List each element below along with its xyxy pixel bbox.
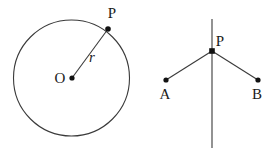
point-label-O: O xyxy=(55,70,66,86)
segment-AP xyxy=(166,51,212,80)
point-label-P-line: P xyxy=(216,33,224,49)
figure-canvas: O P r P A B xyxy=(0,0,277,154)
geometry-figure: O P r P A B xyxy=(0,0,277,154)
point-dot-O xyxy=(69,75,74,80)
point-dot-P-line xyxy=(209,48,215,54)
segment-PB xyxy=(212,51,258,80)
line-angle-diagram: P A B xyxy=(160,19,262,148)
point-dot-B xyxy=(255,77,260,82)
point-label-A: A xyxy=(160,86,171,102)
point-label-P-circle: P xyxy=(108,5,116,21)
point-label-B: B xyxy=(252,86,262,102)
point-dot-P-circle xyxy=(105,26,111,32)
radius-label-r: r xyxy=(89,49,95,65)
circle-radius-diagram: O P r xyxy=(14,5,130,136)
point-dot-A xyxy=(163,77,168,82)
